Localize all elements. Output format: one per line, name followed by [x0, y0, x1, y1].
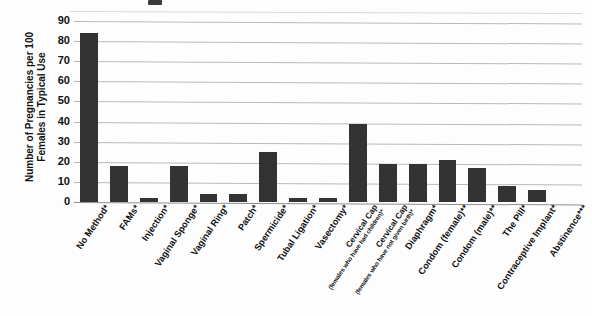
y-tick-50: 50 — [44, 95, 70, 106]
bar — [379, 164, 397, 202]
bar-chart: Number of Pregnancies per 100 Females in… — [0, 0, 592, 316]
x-tick-label: No Method* — [74, 203, 111, 251]
bar — [498, 186, 516, 202]
bar — [229, 194, 247, 202]
bar — [439, 160, 457, 202]
y-tick-10: 10 — [44, 176, 70, 187]
y-tick-30: 30 — [44, 136, 70, 147]
x-tick-label-main: Patch* — [236, 203, 260, 232]
x-tick-label: Patch* — [236, 203, 261, 233]
y-tick-60: 60 — [44, 75, 70, 86]
bar — [468, 168, 486, 202]
bar — [409, 164, 427, 202]
bar — [200, 194, 218, 202]
x-axis-tick-labels: No Method*FAMs*Injection*Vaginal Sponge*… — [74, 203, 582, 316]
bar — [259, 152, 277, 202]
x-tick-label: FAMs* — [117, 203, 141, 232]
bar — [140, 198, 158, 202]
y-tick-40: 40 — [44, 116, 70, 127]
y-axis-tick-labels: 0102030405060708090 — [40, 21, 70, 202]
cropped-title-mark — [148, 0, 162, 5]
x-tick-label-main: No Method* — [74, 203, 111, 251]
y-tick-0: 0 — [44, 196, 70, 207]
y-tick-80: 80 — [44, 35, 70, 46]
bar — [289, 198, 307, 202]
x-tick-label: Injection* — [140, 203, 172, 243]
bar — [528, 190, 546, 202]
bar — [349, 124, 367, 202]
y-tick-90: 90 — [44, 15, 70, 26]
x-tick-label-main: FAMs* — [117, 203, 141, 232]
x-tick-label-main: The Pill* — [501, 203, 530, 239]
top-rule — [70, 11, 582, 14]
y-tick-20: 20 — [44, 156, 70, 167]
x-tick-label-main: Injection* — [140, 203, 171, 243]
x-tick-label: The Pill* — [501, 203, 530, 239]
y-tick-70: 70 — [44, 55, 70, 66]
bar — [110, 166, 128, 202]
bar-series — [74, 21, 582, 202]
bar — [170, 166, 188, 202]
plot-area — [74, 21, 582, 202]
bar — [80, 33, 98, 202]
bar — [319, 198, 337, 202]
